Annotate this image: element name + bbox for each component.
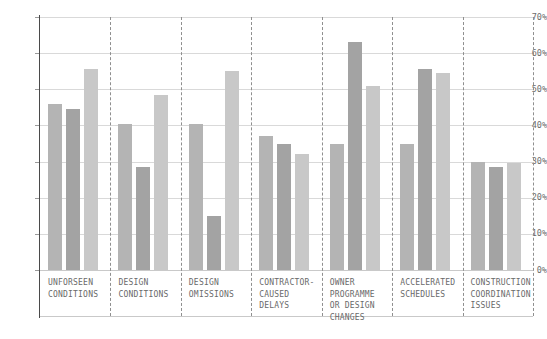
group-separator bbox=[322, 17, 323, 316]
gridline bbox=[40, 270, 533, 271]
bar bbox=[348, 42, 362, 270]
y-tick-label: 50% bbox=[513, 85, 547, 94]
group-separator bbox=[463, 17, 464, 316]
gridline bbox=[40, 17, 533, 18]
group-separator bbox=[110, 17, 111, 316]
label-band-left-border bbox=[39, 270, 40, 316]
label-band-bottom-border bbox=[40, 316, 533, 317]
group-separator bbox=[251, 17, 252, 316]
bar-chart: 0%10%20%30%40%50%60%70% UNFORSEEN CONDIT… bbox=[0, 0, 547, 339]
bar bbox=[418, 69, 432, 270]
bar bbox=[400, 144, 414, 271]
category-label: OWNER PROGRAMME OR DESIGN CHANGES bbox=[330, 277, 390, 323]
plot-area: 0%10%20%30%40%50%60%70% UNFORSEEN CONDIT… bbox=[0, 0, 547, 339]
bar bbox=[118, 124, 132, 270]
bar bbox=[66, 109, 80, 270]
bar bbox=[330, 144, 344, 271]
y-tick-label: 70% bbox=[513, 13, 547, 22]
bar bbox=[189, 124, 203, 270]
bar bbox=[471, 162, 485, 270]
bar bbox=[489, 167, 503, 270]
bar bbox=[84, 69, 98, 270]
category-label: DESIGN CONDITIONS bbox=[118, 277, 178, 300]
bar bbox=[136, 167, 150, 270]
group-separator bbox=[181, 17, 182, 316]
gridline bbox=[40, 89, 533, 90]
bar bbox=[48, 104, 62, 270]
bar bbox=[436, 73, 450, 270]
category-label: DESIGN OMISSIONS bbox=[189, 277, 249, 300]
gridline bbox=[40, 125, 533, 126]
bar bbox=[207, 216, 221, 270]
y-tick-label: 40% bbox=[513, 121, 547, 130]
category-label: CONSTRUCTION COORDINATION ISSUES bbox=[471, 277, 531, 312]
bar bbox=[154, 95, 168, 270]
bar bbox=[507, 163, 521, 270]
bar bbox=[295, 154, 309, 270]
bar bbox=[225, 71, 239, 270]
group-separator bbox=[533, 17, 534, 316]
y-tick-label: 60% bbox=[513, 49, 547, 58]
category-label: UNFORSEEN CONDITIONS bbox=[48, 277, 108, 300]
category-label: ACCELERATED SCHEDULES bbox=[400, 277, 460, 300]
bar bbox=[366, 86, 380, 270]
bar bbox=[259, 136, 273, 270]
gridline bbox=[40, 53, 533, 54]
group-separator bbox=[392, 17, 393, 316]
category-label: CONTRACTOR- CAUSED DELAYS bbox=[259, 277, 319, 312]
bar bbox=[277, 144, 291, 271]
